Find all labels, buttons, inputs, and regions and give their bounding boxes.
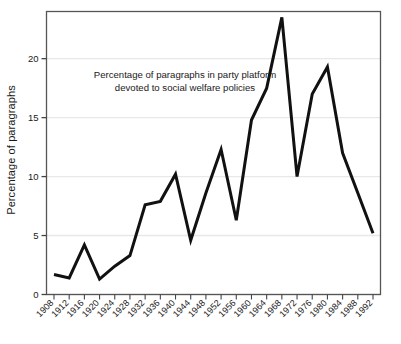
data-series-line [54, 17, 373, 279]
y-tick-label: 15 [28, 112, 39, 123]
chart-figure: Percentage of paragraphs 05101520 190819… [0, 0, 401, 344]
y-tick-label: 5 [33, 230, 38, 241]
chart-annotation: Percentage of paragraphs in party platfo… [94, 69, 276, 93]
annotation-line: devoted to social welfare policies [115, 82, 255, 93]
y-tick-label: 10 [28, 171, 39, 182]
annotation-line: Percentage of paragraphs in party platfo… [94, 69, 276, 80]
series-polyline [54, 17, 373, 279]
x-tick-label: 1992 [353, 298, 374, 319]
plot-frame [47, 12, 381, 295]
y-tick-label: 20 [28, 53, 39, 64]
plot-border [47, 12, 381, 295]
chart-plot-area: 05101520 1908191219161920192419281932193… [0, 0, 401, 344]
y-tick-label: 0 [33, 289, 38, 300]
y-axis-ticks: 05101520 [28, 53, 47, 300]
x-axis-ticks: 1908191219161920192419281932193619401944… [34, 295, 374, 320]
grid-lines [47, 59, 381, 295]
